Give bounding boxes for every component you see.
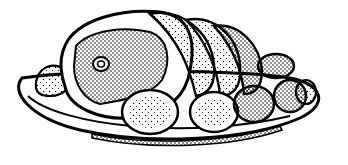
illustration-canvas bbox=[0, 0, 348, 165]
roast-platter-illustration bbox=[0, 0, 348, 165]
eye-of-meat bbox=[93, 57, 109, 71]
